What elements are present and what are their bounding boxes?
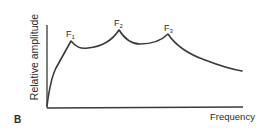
panel-label: B — [14, 114, 21, 125]
y-axis-label: Relative amplitude — [28, 14, 40, 101]
peak-label-f3: F3 — [164, 23, 174, 34]
peak-label-f1: F1 — [66, 29, 76, 40]
x-axis-label: Frequency — [210, 111, 255, 122]
spectral-envelope-curve — [47, 30, 242, 106]
formant-spectrum-figure: F1 F2 F3 Relative amplitude Frequency B — [0, 0, 276, 133]
peak-label-f2: F2 — [114, 18, 124, 29]
spectrum-plot: F1 F2 F3 Relative amplitude Frequency B — [0, 0, 276, 133]
x-axis — [47, 107, 243, 108]
